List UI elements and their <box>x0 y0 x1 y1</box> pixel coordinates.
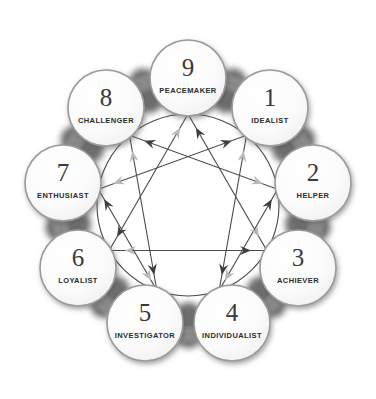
type-node-4[interactable]: 4INDIVIDUALIST <box>194 285 270 361</box>
node-number-4: 4 <box>226 299 239 326</box>
node-label-7: ENTHUSIAST <box>37 191 89 200</box>
type-node-8[interactable]: 8CHALLENGER <box>68 70 144 146</box>
node-label-1: IDEALIST <box>251 116 288 125</box>
node-number-8: 8 <box>100 84 113 111</box>
node-number-2: 2 <box>307 159 320 186</box>
enneagram-canvas: 9PEACEMAKER1IDEALIST2HELPER3ACHIEVER4IND… <box>0 0 376 399</box>
type-node-5[interactable]: 5INVESTIGATOR <box>107 285 183 361</box>
type-node-9[interactable]: 9PEACEMAKER <box>150 40 226 116</box>
node-number-6: 6 <box>72 244 85 271</box>
node-label-2: HELPER <box>297 191 330 200</box>
node-label-6: LOYALIST <box>58 276 98 285</box>
type-node-2[interactable]: 2HELPER <box>275 145 351 221</box>
type-node-1[interactable]: 1IDEALIST <box>232 70 308 146</box>
type-node-3[interactable]: 3ACHIEVER <box>260 230 336 306</box>
node-number-9: 9 <box>182 54 195 81</box>
node-label-4: INDIVIDUALIST <box>202 331 262 340</box>
node-number-5: 5 <box>139 299 152 326</box>
node-number-7: 7 <box>57 159 70 186</box>
type-node-6[interactable]: 6LOYALIST <box>40 230 116 306</box>
node-label-3: ACHIEVER <box>277 276 319 285</box>
type-node-7[interactable]: 7ENTHUSIAST <box>25 145 101 221</box>
enneagram-diagram: 9PEACEMAKER1IDEALIST2HELPER3ACHIEVER4IND… <box>0 0 376 399</box>
node-number-1: 1 <box>264 84 277 111</box>
node-label-8: CHALLENGER <box>78 116 134 125</box>
node-label-5: INVESTIGATOR <box>115 331 176 340</box>
node-number-3: 3 <box>292 244 305 271</box>
node-label-9: PEACEMAKER <box>159 86 217 95</box>
